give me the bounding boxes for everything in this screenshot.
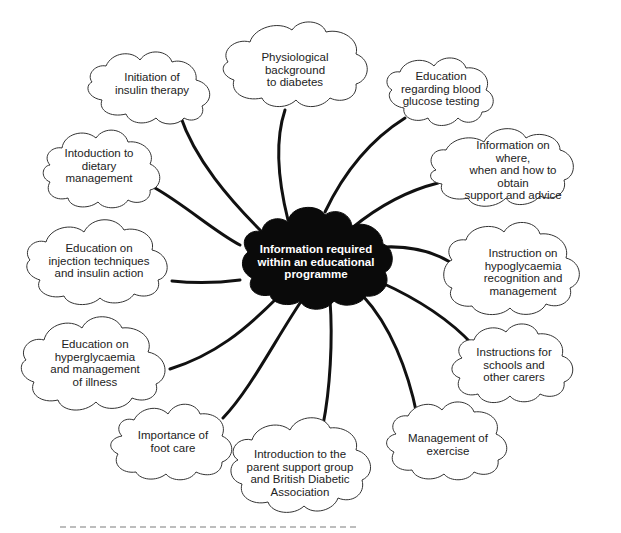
connector-parent-support	[323, 300, 331, 425]
connector-support-advice	[352, 183, 438, 228]
node-exercise: Management of exercise	[408, 432, 488, 457]
connector-blood-glucose-testing	[325, 118, 405, 212]
node-insulin-therapy: Initiation of insulin therapy	[115, 71, 189, 96]
connector-foot-care	[223, 300, 302, 418]
cropped-caption	[60, 524, 420, 533]
node-parent-support: Introduction to the parent support group…	[247, 448, 354, 498]
connector-hypoglycaemia	[385, 247, 450, 262]
connector-hyperglycaemia	[170, 297, 278, 369]
node-foot-care: Importance of foot care	[138, 429, 208, 454]
center-topic-label: Information required within an education…	[258, 243, 375, 281]
cropped-caption-text	[60, 526, 360, 528]
connector-exercise	[363, 296, 417, 415]
node-hypoglycaemia: Instruction on hypoglycaemia recognition…	[484, 247, 563, 297]
connector-physiological-background	[279, 110, 288, 220]
node-support-advice: Information on where, when and how to ob…	[459, 139, 567, 202]
node-blood-glucose-testing: Education regarding blood glucose testin…	[401, 70, 481, 108]
node-hyperglycaemia: Education on hyperglycaemia and manageme…	[50, 338, 140, 388]
node-schools-carers: Instructions for schools and other carer…	[476, 346, 551, 384]
node-dietary-management: Intoduction to dietary management	[64, 147, 133, 185]
connector-injection-techniques	[172, 280, 240, 283]
node-injection-techniques: Education on injection techniques and in…	[48, 242, 149, 280]
node-physiological-background: Physiological background to diabetes	[261, 51, 328, 89]
